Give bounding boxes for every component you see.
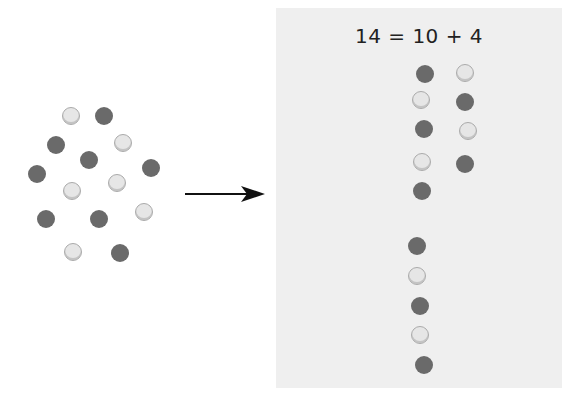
counter-dot-dark [47,136,65,154]
counter-dot-dark [28,165,46,183]
counter-dot-light [456,64,474,82]
counter-dot-light [411,326,429,344]
counter-dot-light [64,243,82,261]
counter-dot-dark [142,159,160,177]
counter-dot-dark [415,120,433,138]
counter-dot-light [114,134,132,152]
counter-dot-dark [413,182,431,200]
counter-dot-light [408,267,426,285]
counter-dot-light [108,174,126,192]
counter-dot-dark [456,155,474,173]
counter-dot-dark [37,210,55,228]
counter-dot-dark [411,297,429,315]
equation-label: 14 = 10 + 4 [276,24,562,48]
counter-dot-light [135,203,153,221]
counter-dot-dark [95,107,113,125]
counter-dot-dark [416,65,434,83]
counter-dot-dark [111,244,129,262]
counter-dot-dark [456,93,474,111]
counter-dot-light [413,153,431,171]
counter-dot-light [62,107,80,125]
counter-dot-dark [80,151,98,169]
counter-dot-light [412,91,430,109]
arrow-right-icon [185,186,265,202]
counter-dot-dark [415,356,433,374]
counter-dot-light [459,122,477,140]
counter-dot-light [63,182,81,200]
counter-dot-dark [408,237,426,255]
counter-dot-dark [90,210,108,228]
